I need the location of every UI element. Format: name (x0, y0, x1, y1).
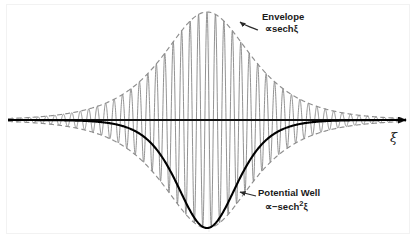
envelope-formula-prop: ∝ (265, 23, 272, 34)
envelope-pointer-arrow (240, 22, 258, 30)
envelope-upper-path (8, 12, 406, 119)
envelope-label: Envelope (262, 12, 304, 23)
envelope-formula-arg: ξ (294, 23, 298, 34)
well-formula-prop: ∝− (265, 201, 278, 212)
potential-well-path (8, 120, 406, 228)
soliton-figure: Envelope ∝sechξ Potential Well ∝−sech2ξ … (0, 0, 418, 241)
potential-well-label: Potential Well (258, 188, 320, 199)
plot-canvas (0, 0, 418, 241)
well-formula-func: sech (278, 201, 300, 212)
envelope-lower-path (8, 121, 406, 228)
xi-axis-label: ξ (390, 131, 397, 146)
well-formula-arg: ξ (303, 201, 307, 212)
potential-well-formula: ∝−sech2ξ (265, 200, 308, 213)
envelope-formula-func: sech (272, 23, 294, 34)
envelope-formula: ∝sechξ (265, 24, 298, 35)
